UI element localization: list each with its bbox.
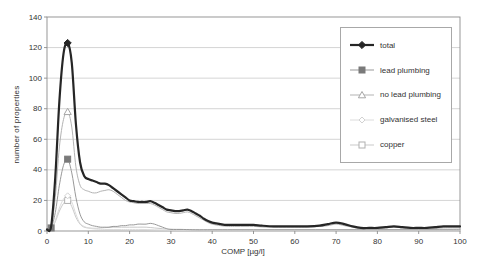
y-tick-label: 60 <box>33 135 42 144</box>
x-axis-title: COMP [µg/l] <box>188 247 298 256</box>
x-tick-label: 20 <box>125 237 134 246</box>
open-triangle-marker-icon <box>349 90 375 100</box>
x-tick-label: 10 <box>84 237 93 246</box>
legend-label: galvanised steel <box>380 115 437 124</box>
open-diamond-marker <box>359 117 365 123</box>
y-tick-label: 80 <box>33 104 42 113</box>
x-tick-label: 100 <box>453 237 467 246</box>
y-axis-title: number of properties <box>12 81 21 169</box>
x-tick-label: 50 <box>249 237 258 246</box>
x-tick-label: 70 <box>332 237 341 246</box>
legend-entry-no-lead-plumbing: no lead plumbing <box>349 90 443 100</box>
filled-diamond-marker-icon <box>349 40 375 50</box>
legend-entry-lead-plumbing: lead plumbing <box>349 65 443 75</box>
line-chart-figure: 0102030405060708090100020406080100120140… <box>0 0 482 273</box>
y-tick-label: 0 <box>38 227 43 236</box>
filled-square-marker <box>359 67 365 73</box>
x-tick-label: 60 <box>290 237 299 246</box>
filled-square-marker-icon <box>349 65 375 75</box>
legend-label: no lead plumbing <box>380 90 441 99</box>
legend: total lead plumbing no lead plumbing gal… <box>340 27 452 163</box>
open-square-marker <box>359 142 365 148</box>
open-square-marker-icon <box>349 140 375 150</box>
x-tick-label: 30 <box>166 237 175 246</box>
y-tick-label: 120 <box>29 43 43 52</box>
filled-square-marker <box>65 156 71 162</box>
legend-entry-copper: copper <box>349 140 443 150</box>
legend-entry-galvanised-steel: galvanised steel <box>349 115 443 125</box>
y-tick-label: 140 <box>29 13 43 22</box>
filled-diamond-marker <box>358 42 365 49</box>
y-tick-label: 100 <box>29 74 43 83</box>
x-tick-label: 40 <box>208 237 217 246</box>
x-tick-label: 0 <box>45 237 50 246</box>
legend-entry-total: total <box>349 40 443 50</box>
legend-label: copper <box>380 140 404 149</box>
legend-label: total <box>380 41 395 50</box>
legend-label: lead plumbing <box>380 66 430 75</box>
y-tick-label: 40 <box>33 165 42 174</box>
x-tick-label: 80 <box>373 237 382 246</box>
open-triangle-marker <box>64 108 71 114</box>
y-tick-label: 20 <box>33 196 42 205</box>
x-tick-label: 90 <box>414 237 423 246</box>
open-diamond-marker-icon <box>349 115 375 125</box>
